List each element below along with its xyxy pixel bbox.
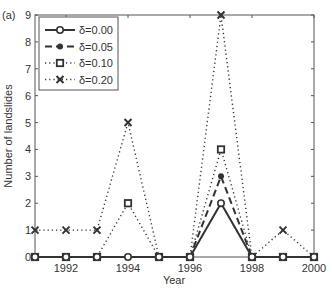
x-tick-label: 1998: [240, 262, 264, 274]
circle-marker: [94, 254, 100, 260]
y-tick-label: 8: [25, 36, 31, 48]
x-tick-label: 1992: [54, 262, 78, 274]
series-δ=0.10: [32, 146, 317, 260]
square-marker: [125, 200, 131, 206]
x-marker: [63, 227, 70, 234]
x-axis-label: Year: [163, 274, 186, 286]
legend-label: δ=0.00: [79, 24, 113, 36]
y-tick-label: 9: [25, 9, 31, 21]
legend-label: δ=0.05: [79, 41, 113, 53]
circle-marker: [187, 254, 193, 260]
circle-marker: [218, 200, 224, 206]
x-tick-label: 1996: [178, 262, 202, 274]
y-tick-label: 3: [25, 170, 31, 182]
y-axis-label: Number of landslides: [2, 84, 14, 188]
y-tick-label: 6: [25, 90, 31, 102]
series-δ=0.05: [32, 173, 317, 260]
y-tick-label: 5: [25, 117, 31, 129]
square-marker: [218, 146, 224, 152]
y-tick-label: 2: [25, 197, 31, 209]
circle-marker: [280, 254, 286, 260]
series-line: [35, 176, 314, 257]
x-marker: [125, 119, 132, 126]
legend-label: δ=0.20: [79, 74, 113, 86]
series-δ=0.00: [32, 200, 317, 260]
x-tick-label: 1994: [116, 262, 140, 274]
circle-marker: [249, 254, 255, 260]
x-tick-label: 2000: [302, 262, 326, 274]
dot-marker: [218, 173, 224, 179]
circle-marker: [57, 27, 63, 33]
y-tick-label: 1: [25, 224, 31, 236]
circle-marker: [32, 254, 38, 260]
series-line: [35, 149, 314, 257]
legend-label: δ=0.10: [79, 57, 113, 69]
circle-marker: [311, 254, 317, 260]
legend: δ=0.00δ=0.05δ=0.10δ=0.20: [39, 17, 118, 90]
y-tick-label: 0: [25, 251, 31, 263]
square-marker: [57, 60, 63, 66]
circle-marker: [125, 254, 131, 260]
circle-marker: [156, 254, 162, 260]
circle-marker: [63, 254, 69, 260]
line-chart: (a) 0123456789 19921994199619982000 Year…: [0, 0, 332, 295]
panel-label: (a): [2, 9, 15, 21]
y-tick-label: 4: [25, 143, 31, 155]
series-line: [35, 203, 314, 257]
dot-marker: [57, 44, 63, 50]
x-marker: [280, 227, 287, 234]
y-tick-label: 7: [25, 63, 31, 75]
